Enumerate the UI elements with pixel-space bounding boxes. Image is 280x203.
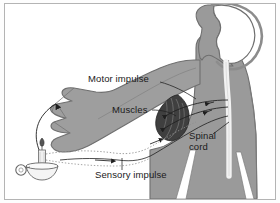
- candle-flame: [40, 138, 44, 146]
- label-motor-impulse: Motor impulse: [88, 74, 149, 85]
- label-muscles: Muscles: [112, 105, 148, 116]
- label-spinal-cord-line1: Spinal: [189, 131, 216, 142]
- reflex-arc-figure: Motor impulse Muscles Spinal cord Sensor…: [0, 0, 280, 203]
- spinal-cord-channel: [226, 62, 229, 176]
- label-sensory-impulse: Sensory impulse: [95, 170, 167, 181]
- label-spinal-cord-line2: cord: [189, 142, 208, 153]
